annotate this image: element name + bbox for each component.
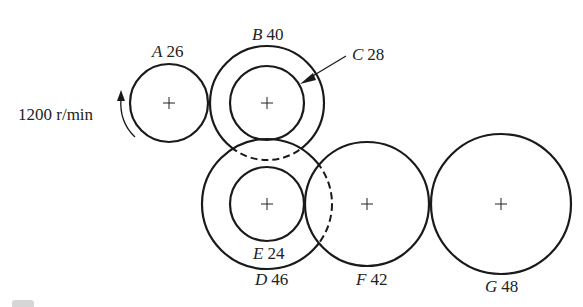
gear-f <box>305 142 429 266</box>
gear-g-label: G48 <box>485 277 518 296</box>
center-mark-icon <box>495 198 507 210</box>
gear-train-diagram: 1200 r/min A26 B40 C28 E24 D46 F42 G48 <box>0 0 583 307</box>
gear-e-label: E24 <box>252 244 285 263</box>
center-mark-icon <box>361 198 373 210</box>
gear-c <box>230 66 304 140</box>
gear-a <box>130 64 208 142</box>
gear-c-label: C28 <box>352 45 384 64</box>
input-speed-label: 1200 r/min <box>18 105 94 124</box>
center-mark-icon <box>163 97 175 109</box>
gear-c-leader-arrow-icon <box>300 56 346 84</box>
gear-a-label: A26 <box>151 42 183 61</box>
center-mark-icon <box>261 97 273 109</box>
gear-d-label: D46 <box>254 270 288 289</box>
caption-marker <box>12 300 34 307</box>
gear-e <box>230 167 304 241</box>
gear-b-label: B40 <box>252 25 283 44</box>
gear-f-label: F42 <box>355 270 387 289</box>
center-mark-icon <box>261 198 273 210</box>
gear-g <box>431 134 571 274</box>
